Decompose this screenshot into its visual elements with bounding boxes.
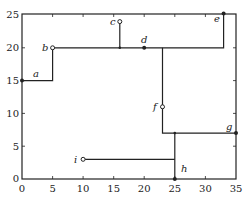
point-h (173, 177, 177, 181)
point-c (118, 20, 122, 24)
x-tick-label: 5 (49, 183, 55, 194)
plot-frame (22, 14, 236, 179)
y-tick-label: 20 (6, 42, 19, 53)
point-d (142, 46, 146, 50)
y-tick-label: 25 (6, 9, 19, 20)
point-f (161, 105, 165, 109)
y-axis-labels: 0 5 10 15 20 25 (6, 9, 19, 184)
point-labels: a b c d e f g h i (33, 13, 232, 174)
points (20, 12, 238, 181)
x-tick-label: 35 (230, 183, 243, 194)
x-tick-label: 30 (199, 183, 212, 194)
point-g (234, 131, 238, 135)
path-diagram: 0 5 10 15 20 25 30 35 0 5 10 15 20 25 (0, 0, 249, 199)
label-c: c (110, 16, 116, 27)
label-e: e (214, 13, 220, 24)
x-tick-label: 20 (138, 183, 151, 194)
x-axis-labels: 0 5 10 15 20 25 30 35 (19, 183, 243, 194)
label-h: h (181, 163, 187, 174)
label-b: b (42, 42, 48, 53)
x-tick-label: 0 (19, 183, 25, 194)
x-tick-label: 10 (77, 183, 90, 194)
y-axis-ticks (22, 48, 236, 146)
y-tick-label: 5 (13, 141, 19, 152)
y-tick-label: 10 (6, 108, 19, 119)
point-b (51, 46, 55, 50)
point-i (81, 157, 85, 161)
y-tick-label: 0 (13, 173, 19, 184)
x-tick-label: 25 (168, 183, 181, 194)
label-d: d (141, 34, 147, 45)
x-tick-label: 15 (107, 183, 120, 194)
y-tick-label: 15 (6, 75, 19, 86)
point-a (20, 79, 24, 83)
junction-dots (119, 47, 177, 135)
label-i: i (74, 154, 77, 165)
point-e (222, 12, 226, 16)
label-g: g (226, 121, 232, 132)
path-segments (22, 14, 236, 179)
segment-f-g (163, 48, 237, 133)
label-a: a (33, 68, 39, 79)
label-f: f (152, 101, 159, 112)
